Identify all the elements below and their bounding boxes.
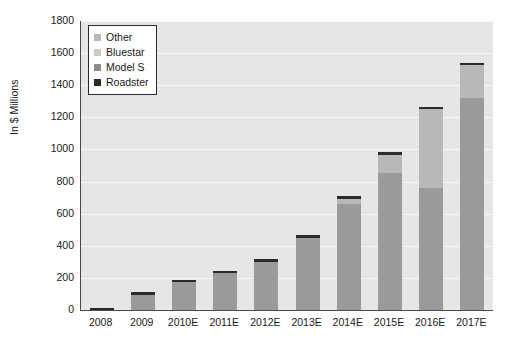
x-axis-tick-label: 2011E: [204, 316, 245, 328]
legend-item-label: Other: [106, 32, 132, 43]
bar-segment-roadster: [131, 292, 155, 294]
bar-2014E[interactable]: [337, 21, 361, 310]
legend-item-label: Model S: [106, 62, 145, 73]
bar-segment-bluestar: [378, 173, 402, 310]
bar-segment-roadster: [213, 271, 237, 273]
legend-swatch-icon: [94, 79, 101, 86]
bar-segment-other: [419, 109, 443, 188]
y-axis-tick-label: 1600: [34, 46, 74, 58]
bar-segment-roadster: [172, 280, 196, 282]
x-axis-tick-label: 2014E: [327, 316, 368, 328]
legend-swatch-icon: [94, 49, 101, 56]
legend-swatch-icon: [94, 34, 101, 41]
bar-segment-roadster: [378, 152, 402, 155]
bar-segment-roadster: [296, 235, 320, 237]
y-axis-title: In $ Millions: [8, 80, 20, 135]
bar-2010E[interactable]: [172, 21, 196, 310]
y-axis-tick-label: 600: [34, 207, 74, 219]
x-axis-tick-label: 2008: [80, 316, 121, 328]
legend-item-model-s[interactable]: Model S: [94, 60, 149, 75]
y-axis-tick-label: 1200: [34, 110, 74, 122]
bar-segment-roadster: [337, 196, 361, 199]
y-axis-tick-label: 800: [34, 175, 74, 187]
bar-2017E[interactable]: [460, 21, 484, 310]
x-axis-tick-label: 2017E: [451, 316, 492, 328]
bar-segment-roadster: [460, 63, 484, 65]
bar-2016E[interactable]: [419, 21, 443, 310]
y-axis-tick-label: 1000: [34, 142, 74, 154]
legend-swatch-icon: [94, 64, 101, 71]
bar-segment-bluestar: [296, 238, 320, 310]
bar-segment-other: [460, 65, 484, 98]
x-axis-tick-label: 2013E: [286, 316, 327, 328]
x-axis-tick-label: 2016E: [410, 316, 451, 328]
bar-segment-bluestar: [213, 273, 237, 310]
bar-segment-bluestar: [337, 204, 361, 310]
bar-segment-other: [337, 199, 361, 204]
bar-segment-bluestar: [419, 188, 443, 310]
legend-item-bluestar[interactable]: Bluestar: [94, 45, 149, 60]
stacked-bar-chart: In $ Millions 18001600140012001000800600…: [0, 0, 510, 341]
y-axis-tick-label: 200: [34, 271, 74, 283]
bar-segment-roadster: [419, 107, 443, 109]
bar-segment-other: [378, 155, 402, 173]
bar-segment-bluestar: [131, 295, 155, 310]
bar-2011E[interactable]: [213, 21, 237, 310]
bar-2015E[interactable]: [378, 21, 402, 310]
bar-segment-bluestar: [172, 282, 196, 310]
legend-item-roadster[interactable]: Roadster: [94, 75, 149, 90]
bar-2013E[interactable]: [296, 21, 320, 310]
y-axis-tick-label: 0: [34, 303, 74, 315]
bar-2012E[interactable]: [254, 21, 278, 310]
bar-segment-bluestar: [254, 262, 278, 310]
x-axis-tick-label: 2009: [121, 316, 162, 328]
legend-item-other[interactable]: Other: [94, 30, 149, 45]
y-axis-tick-label: 1800: [34, 14, 74, 26]
legend-item-label: Bluestar: [106, 47, 145, 58]
bar-segment-roadster: [254, 259, 278, 261]
legend-item-label: Roadster: [106, 77, 149, 88]
chart-legend: OtherBluestarModel SRoadster: [88, 25, 157, 95]
y-axis-tick-label: 400: [34, 239, 74, 251]
bar-segment-bluestar: [460, 98, 484, 310]
x-axis-tick-label: 2012E: [245, 316, 286, 328]
y-axis-tick-label: 1400: [34, 78, 74, 90]
x-axis-tick-label: 2015E: [368, 316, 409, 328]
x-axis-tick-label: 2010E: [162, 316, 203, 328]
bar-segment-roadster: [90, 308, 114, 310]
